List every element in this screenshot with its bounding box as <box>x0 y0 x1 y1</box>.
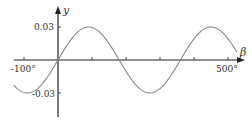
y-axis-arrow-icon <box>55 6 61 14</box>
y-axis-label: y <box>62 4 70 17</box>
x-tick-label-min: -100° <box>11 64 36 74</box>
x-axis-label: β <box>239 46 246 59</box>
y-tick-label-max: 0.03 <box>34 22 54 32</box>
x-tick-label-max: 500° <box>216 64 238 74</box>
y-tick-label-min: -0.03 <box>32 89 55 99</box>
chart: -100° 500° 0.03 -0.03 y β <box>0 0 252 121</box>
